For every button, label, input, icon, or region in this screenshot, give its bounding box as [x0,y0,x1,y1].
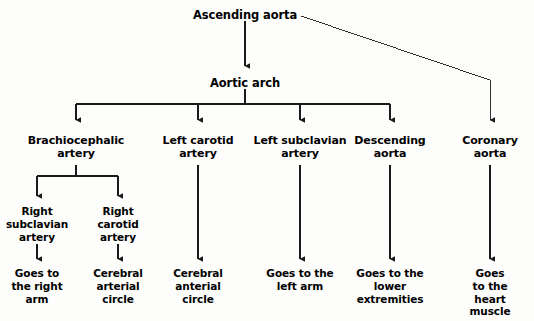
node-descending-aorta: Descending aorta [354,134,425,161]
node-goes-to-lower-extremities: Goes to the lower extremities [356,267,423,305]
node-cerebral-arterial-circle: Cerebral arterial circle [93,267,143,305]
node-left-subclavian-artery: Left subclavian artery [253,134,346,161]
node-right-subclavian-artery: Right subclavian artery [6,205,68,243]
node-goes-to-left-arm: Goes to the left arm [266,267,333,293]
edge-root-to-coronary [301,16,490,120]
node-brachiocephalic-artery: Brachiocephalic artery [28,134,125,161]
node-right-carotid-artery: Right carotid artery [97,205,138,243]
node-aortic-arch: Aortic arch [210,76,280,90]
node-goes-to-right-arm: Goes to the right arm [11,267,62,305]
node-ascending-aorta: Ascending aorta [193,8,297,22]
diagram-canvas: Ascending aorta Aortic arch Brachiocepha… [0,0,534,321]
node-left-carotid-artery: Left carotid artery [163,134,234,161]
node-goes-to-heart-muscle: Goes to the heart muscle [468,267,512,318]
node-cerebral-anterial-circle: Cerebral anterial circle [173,267,223,305]
node-coronary-aorta: Coronary aorta [462,134,518,161]
